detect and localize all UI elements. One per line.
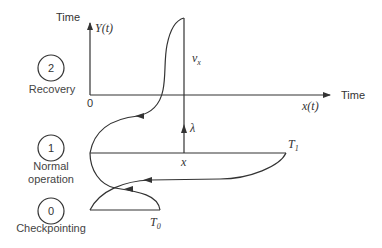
checkpoint-arrow-icon [124, 186, 133, 192]
t1-return-arrow-icon [143, 177, 152, 183]
lambda-label: λ [189, 121, 195, 135]
lambda-arrow-icon [181, 124, 187, 133]
state-1-label-line1: Normal [33, 160, 68, 172]
y-axis-function-label: Y(t) [95, 21, 113, 35]
x-label: x [180, 155, 187, 169]
state-0-checkpointing: 0 Checkpointing [16, 198, 86, 234]
t1-return-curve [90, 153, 286, 210]
diagram-canvas: Time Y(t) 0 Time x(t) vx λ x T1 T0 2 Rec… [0, 0, 382, 248]
vx-label: vx [192, 51, 201, 67]
state-0-label: Checkpointing [16, 222, 86, 234]
recovery-curve [90, 18, 184, 153]
origin-label: 0 [87, 97, 93, 109]
state-2-recovery: 2 Recovery [29, 55, 76, 95]
state-2-label: Recovery [29, 83, 76, 95]
state-1-number: 1 [48, 142, 54, 154]
state-1-label-line2: operation [28, 173, 74, 185]
y-axis-time-label: Time [56, 11, 80, 23]
t1-label: T1 [288, 137, 299, 153]
t0-label: T0 [150, 215, 161, 231]
state-0-number: 0 [48, 205, 54, 217]
recovery-arrow-icon [135, 113, 144, 119]
state-2-number: 2 [48, 62, 54, 74]
state-1-normal-operation: 1 Normal operation [28, 135, 74, 185]
x-axis-time-label: Time [341, 89, 365, 101]
x-axis-function-label: x(t) [301, 99, 319, 113]
